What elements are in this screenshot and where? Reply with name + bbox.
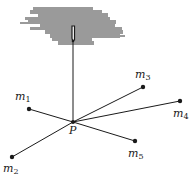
mass-subscript: 4 bbox=[183, 112, 188, 121]
svg-text:m4: m4 bbox=[173, 107, 189, 121]
mass-m1: m1 bbox=[15, 90, 31, 111]
mass-m5: m5 bbox=[128, 139, 144, 161]
hook-icon bbox=[72, 26, 75, 42]
mass-label: m bbox=[3, 162, 13, 175]
mass-label: m bbox=[173, 107, 183, 120]
svg-text:m3: m3 bbox=[135, 68, 151, 82]
mass-label: m bbox=[15, 90, 25, 103]
svg-text:m2: m2 bbox=[3, 162, 19, 176]
mass-subscript: 5 bbox=[138, 152, 143, 161]
force-diagram: P m1 m2 m3 m4 m5 bbox=[0, 0, 195, 184]
point-p-label: P bbox=[68, 124, 77, 137]
mass-m2: m2 bbox=[3, 155, 19, 176]
mass-subscript: 1 bbox=[25, 95, 30, 104]
svg-text:m5: m5 bbox=[128, 147, 144, 161]
mass-label: m bbox=[128, 147, 138, 160]
mass-m3: m3 bbox=[135, 68, 151, 89]
mass-label: m bbox=[135, 68, 145, 81]
svg-text:m1: m1 bbox=[15, 90, 31, 104]
connecting-lines bbox=[12, 87, 180, 157]
mass-subscript: 3 bbox=[145, 73, 150, 82]
mass-subscript: 2 bbox=[13, 167, 18, 176]
